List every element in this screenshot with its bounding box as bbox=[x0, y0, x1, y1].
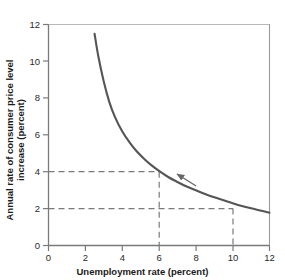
y-tick-label-10: 10 bbox=[29, 56, 40, 67]
phillips-curve-figure: 0 2 4 6 8 10 12 0 2 4 6 8 10 12 bbox=[0, 0, 285, 280]
phillips-curve-series bbox=[95, 34, 270, 213]
y-axis-tick-labels: 0 2 4 6 8 10 12 bbox=[29, 19, 40, 251]
y-tick-label-2: 2 bbox=[35, 203, 40, 214]
x-axis-tick-labels: 0 2 4 6 8 10 12 bbox=[46, 252, 275, 263]
x-axis-ticks bbox=[49, 246, 270, 252]
x-tick-label-10: 10 bbox=[228, 252, 239, 263]
x-tick-label-0: 0 bbox=[46, 252, 51, 263]
x-tick-label-6: 6 bbox=[157, 252, 162, 263]
x-tick-label-12: 12 bbox=[264, 252, 275, 263]
y-tick-label-4: 4 bbox=[35, 166, 40, 177]
x-tick-label-4: 4 bbox=[120, 252, 125, 263]
reference-lines bbox=[49, 172, 234, 246]
y-tick-label-8: 8 bbox=[35, 92, 40, 103]
x-tick-label-2: 2 bbox=[83, 252, 88, 263]
y-axis-ticks bbox=[43, 25, 49, 246]
x-tick-label-8: 8 bbox=[193, 252, 198, 263]
y-tick-label-6: 6 bbox=[35, 129, 40, 140]
x-axis-title: Unemployment rate (percent) bbox=[0, 266, 285, 277]
y-tick-label-12: 12 bbox=[29, 19, 40, 30]
chart-plot-area: 0 2 4 6 8 10 12 0 2 4 6 8 10 12 bbox=[0, 0, 285, 280]
y-tick-label-0: 0 bbox=[35, 240, 40, 251]
